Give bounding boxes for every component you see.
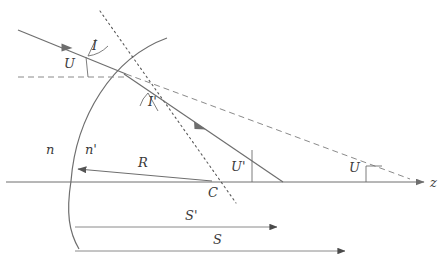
label-n: n [46,143,54,156]
optics-refraction-diagram: I U I' n n' R C U' U z S' S [0,0,444,268]
label-R: R [138,156,148,169]
diagram-canvas [0,0,444,268]
label-S-prime: S' [185,209,197,222]
label-I-prime: I' [148,95,157,108]
label-C: C [208,186,218,199]
label-z-axis: z [430,176,437,189]
angle-mark-I [88,39,108,56]
incident-ray-extension [126,74,410,179]
radius-arrow [78,169,212,181]
angle-mark-U [86,57,88,77]
label-S: S [213,233,222,246]
label-n-prime: n' [85,143,97,156]
angle-mark-U-axis [366,166,382,182]
label-I: I [92,39,97,52]
spherical-surface [69,38,167,249]
label-U-upper: U [64,57,75,70]
label-U-lower: U [349,161,360,174]
label-U-prime: U' [231,160,246,173]
